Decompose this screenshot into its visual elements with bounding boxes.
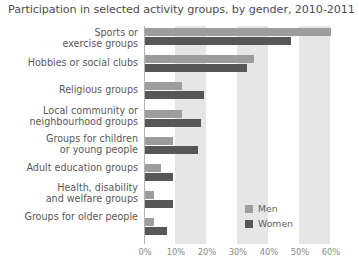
bar-religious-men	[145, 82, 182, 90]
legend-swatch-men	[245, 205, 253, 213]
x-tick-20: 20%	[195, 247, 219, 257]
bar-adult-education-men	[145, 164, 161, 172]
bar-local-community-men	[145, 110, 182, 118]
legend-item-women: Women	[245, 217, 293, 230]
category-label-older-people: Groups for older people	[3, 212, 138, 223]
category-label-adult-education: Adult education groups	[3, 163, 138, 174]
bar-older-people-men	[145, 218, 154, 226]
legend-swatch-women	[245, 220, 253, 228]
chart-title: Participation in selected activity group…	[8, 3, 356, 16]
bar-religious-women	[145, 91, 204, 99]
bar-sports-men	[145, 28, 331, 36]
legend-item-men: Men	[245, 202, 293, 215]
legend-label-women: Women	[258, 218, 293, 229]
category-label-hobbies: Hobbies or social clubs	[3, 58, 138, 69]
bar-adult-education-women	[145, 173, 173, 181]
chart-legend: Men Women	[245, 202, 293, 232]
x-tick-40: 40%	[257, 247, 281, 257]
bar-children-men	[145, 137, 173, 145]
x-tick-0: 0%	[133, 247, 157, 257]
category-label-sports: Sports or exercise groups	[3, 28, 138, 49]
category-label-religious: Religious groups	[3, 85, 138, 96]
x-tick-60: 60%	[319, 247, 343, 257]
bar-sports-women	[145, 37, 291, 45]
x-tick-10: 10%	[164, 247, 188, 257]
legend-label-men: Men	[258, 203, 278, 214]
activity-participation-chart: Participation in selected activity group…	[0, 0, 359, 270]
x-tick-30: 30%	[226, 247, 250, 257]
bar-hobbies-men	[145, 55, 254, 63]
bar-older-people-women	[145, 227, 167, 235]
category-label-local-community: Local community or neighbourhood groups	[3, 106, 138, 127]
bar-local-community-women	[145, 119, 201, 127]
bar-hobbies-women	[145, 64, 247, 72]
bar-health-women	[145, 200, 173, 208]
bar-children-women	[145, 146, 198, 154]
category-label-health: Health, disability and welfare groups	[3, 183, 138, 204]
background-band	[299, 26, 330, 244]
bar-health-men	[145, 191, 154, 199]
category-label-children: Groups for children or young people	[3, 134, 138, 155]
x-tick-50: 50%	[288, 247, 312, 257]
